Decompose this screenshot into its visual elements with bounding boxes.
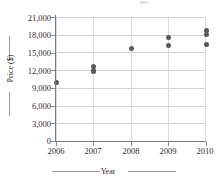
gridline-vertical xyxy=(93,17,94,141)
y-tick-label: 12,000 xyxy=(5,67,51,76)
y-tick-label: 21,000 xyxy=(5,14,51,23)
y-tick-label: 6,000 xyxy=(5,102,51,111)
data-point xyxy=(129,46,134,51)
data-point xyxy=(166,35,171,40)
data-point xyxy=(91,69,96,74)
data-point xyxy=(204,42,209,47)
plot-area xyxy=(56,17,206,141)
y-tick-label-group: 21,000 18,000 15,000 12,000 9,000 6,000 … xyxy=(2,0,51,185)
data-point xyxy=(166,43,171,48)
x-tick-label: 2010 xyxy=(188,147,216,156)
y-tick-label: 0 xyxy=(5,137,51,146)
top-edge-artifact xyxy=(139,1,148,4)
x-axis-title: Year xyxy=(0,167,216,176)
y-tick-label: 15,000 xyxy=(5,49,51,58)
y-tick-label: 18,000 xyxy=(5,31,51,40)
y-axis-line xyxy=(55,15,56,142)
scatter-chart-figure: Price ($) 21,000 18,000 15,000 12,000 9,… xyxy=(0,0,216,185)
gridline-vertical xyxy=(131,17,132,141)
x-tick-label: 2007 xyxy=(76,147,110,156)
x-tick-label: 2006 xyxy=(39,147,73,156)
y-tick-label: 9,000 xyxy=(5,84,51,93)
data-point xyxy=(204,32,209,37)
x-tick-label: 2008 xyxy=(114,147,148,156)
y-tick-label: 3,000 xyxy=(5,120,51,129)
x-tick-label: 2009 xyxy=(151,147,185,156)
